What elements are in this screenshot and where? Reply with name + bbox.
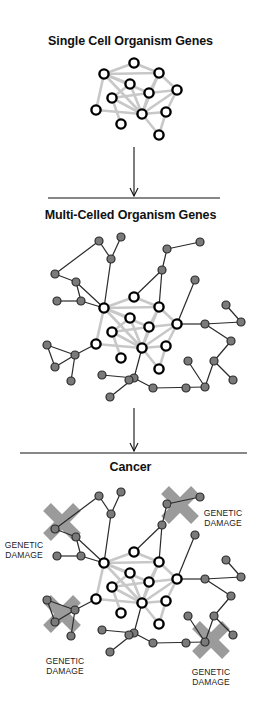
- damage-label-upper-left: GENETIC DAMAGE: [2, 540, 46, 560]
- peripheral-gene-node-cancer: [222, 556, 230, 564]
- peripheral-gene-node-cancer: [201, 575, 209, 583]
- core-gene-node-cancer: [172, 574, 181, 583]
- peripheral-gene-node-cancer: [201, 638, 209, 646]
- core-edge: [104, 73, 159, 74]
- peripheral-gene-node-multi: [67, 377, 75, 385]
- peripheral-gene-node-multi: [222, 301, 230, 309]
- damage-x-icon: [196, 625, 226, 655]
- core-gene-node-cancer: [116, 608, 125, 617]
- peripheral-gene-node-multi: [227, 337, 235, 345]
- peripheral-gene-node-cancer: [67, 632, 75, 640]
- peripheral-edge: [104, 259, 111, 308]
- peripheral-edge: [134, 525, 162, 552]
- label-line: DAMAGE: [188, 677, 234, 687]
- peripheral-gene-node-cancer: [210, 612, 218, 620]
- core-gene-node-multi: [125, 313, 134, 322]
- core-edge: [104, 307, 159, 308]
- core-gene-node-multi: [91, 339, 100, 348]
- core-gene-node-single: [154, 130, 163, 139]
- core-gene-node-cancer: [91, 594, 100, 603]
- peripheral-edge: [167, 242, 200, 249]
- label-line: DAMAGE: [200, 518, 246, 528]
- core-gene-node-cancer: [99, 558, 108, 567]
- label-line: DAMAGE: [2, 550, 46, 560]
- peripheral-edge: [153, 642, 205, 643]
- peripheral-edge: [188, 361, 205, 387]
- core-gene-node-cancer: [107, 582, 116, 591]
- peripheral-gene-node-multi: [51, 363, 59, 371]
- peripheral-gene-node-multi: [237, 318, 245, 326]
- panel-title-cancer: Cancer: [0, 460, 261, 474]
- peripheral-gene-node-cancer: [117, 488, 125, 496]
- core-gene-node-multi: [154, 364, 163, 373]
- peripheral-edge: [205, 324, 231, 341]
- peripheral-gene-node-cancer: [107, 510, 115, 518]
- peripheral-gene-node-multi: [72, 278, 80, 286]
- peripheral-gene-node-multi: [229, 376, 237, 384]
- peripheral-gene-node-cancer: [191, 531, 199, 539]
- core-gene-node-cancer: [137, 598, 146, 607]
- core-gene-node-cancer: [125, 568, 134, 577]
- core-gene-node-multi: [107, 327, 116, 336]
- panel-title-single-cell: Single Cell Organism Genes: [0, 34, 261, 48]
- peripheral-edge: [55, 496, 99, 529]
- peripheral-edge: [205, 577, 241, 579]
- peripheral-gene-node-cancer: [43, 596, 51, 604]
- peripheral-gene-node-cancer: [196, 493, 204, 501]
- label-line: DAMAGE: [42, 666, 88, 676]
- peripheral-gene-node-cancer: [51, 618, 59, 626]
- damage-label-lower-left: GENETIC DAMAGE: [42, 656, 88, 676]
- peripheral-gene-node-multi: [117, 233, 125, 241]
- core-gene-node-multi: [99, 303, 108, 312]
- peripheral-gene-node-multi: [51, 270, 59, 278]
- core-gene-node-cancer: [161, 596, 170, 605]
- peripheral-gene-node-multi: [106, 393, 114, 401]
- core-gene-node-multi: [116, 353, 125, 362]
- core-gene-node-single: [144, 88, 153, 97]
- peripheral-gene-node-multi: [95, 237, 103, 245]
- peripheral-gene-edges: [47, 237, 241, 652]
- peripheral-gene-node-multi: [196, 238, 204, 246]
- damage-label-upper-right: GENETIC DAMAGE: [200, 508, 246, 528]
- core-gene-node-single: [172, 85, 181, 94]
- peripheral-edge: [104, 514, 111, 563]
- peripheral-edge: [205, 322, 241, 324]
- peripheral-gene-node-multi: [125, 376, 133, 384]
- peripheral-gene-node-multi: [149, 384, 157, 392]
- core-gene-node-multi: [129, 292, 138, 301]
- panel-title-multi-celled: Multi-Celled Organism Genes: [0, 208, 261, 222]
- core-gene-node-single: [129, 58, 138, 67]
- peripheral-gene-node-cancer: [182, 639, 190, 647]
- peripheral-gene-node-multi: [184, 357, 192, 365]
- peripheral-gene-node-multi: [43, 341, 51, 349]
- peripheral-edge: [134, 270, 162, 297]
- peripheral-gene-node-cancer: [71, 606, 79, 614]
- core-gene-node-cancer: [129, 547, 138, 556]
- peripheral-gene-node-multi: [71, 351, 79, 359]
- core-gene-node-cancer: [144, 577, 153, 586]
- core-gene-node-multi: [172, 319, 181, 328]
- core-gene-node-single: [99, 69, 108, 78]
- label-line: GENETIC: [200, 508, 246, 518]
- peripheral-gene-node-multi: [158, 266, 166, 274]
- core-gene-node-multi: [154, 302, 163, 311]
- peripheral-gene-node-cancer: [227, 592, 235, 600]
- peripheral-edge: [205, 579, 231, 596]
- peripheral-gene-node-cancer: [95, 492, 103, 500]
- peripheral-gene-node-cancer: [53, 552, 61, 560]
- peripheral-gene-node-cancer: [184, 612, 192, 620]
- core-gene-node-single: [154, 68, 163, 77]
- damage-label-lower-right: GENETIC DAMAGE: [188, 667, 234, 687]
- core-gene-node-single: [116, 119, 125, 128]
- peripheral-edge: [153, 387, 205, 388]
- core-gene-node-cancer: [154, 557, 163, 566]
- core-gene-node-multi: [161, 341, 170, 350]
- peripheral-gene-node-multi: [107, 255, 115, 263]
- core-edge: [104, 562, 159, 563]
- peripheral-gene-node-multi: [210, 357, 218, 365]
- core-gene-node-single: [107, 93, 116, 102]
- peripheral-gene-node-cancer: [51, 525, 59, 533]
- core-gene-node-multi: [144, 322, 153, 331]
- peripheral-gene-node-multi: [182, 384, 190, 392]
- peripheral-gene-node-cancer: [106, 648, 114, 656]
